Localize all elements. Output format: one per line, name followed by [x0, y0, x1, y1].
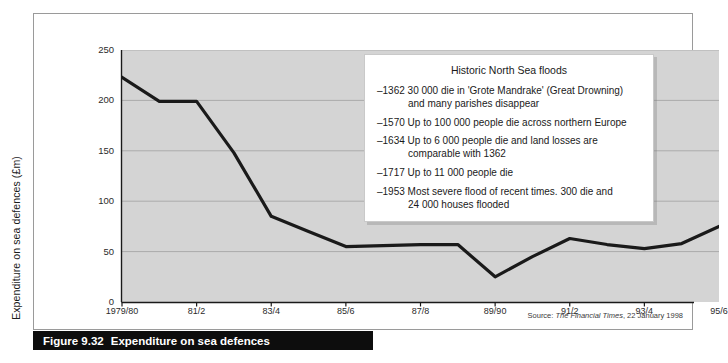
callout-item: –1570 Up to 100 000 people die across no…	[377, 117, 641, 130]
x-axis-tick-label: 89/90	[484, 306, 507, 316]
x-axis-tick-marks	[122, 302, 694, 307]
callout-item: –1362 30 000 die in 'Grote Mandrake' (Gr…	[377, 85, 641, 111]
y-axis-title: Expenditure on sea defences (£m)	[10, 118, 22, 358]
y-axis-tick-label: 50	[84, 247, 114, 257]
x-axis-tick-label: 85/6	[337, 306, 355, 316]
source-publication: The Financial Times	[555, 311, 622, 320]
y-axis-tick-label: 250	[84, 45, 114, 55]
callout-title: Historic North Sea floods	[377, 64, 641, 76]
callout-item: –1953 Most severe flood of recent times.…	[377, 186, 641, 212]
x-axis-tick-label: 81/2	[188, 306, 206, 316]
caption-number: Figure 9.32	[43, 335, 104, 347]
x-axis-tick-label: 83/4	[262, 306, 280, 316]
figure-caption-bar: Figure 9.32 Expenditure on sea defences	[33, 331, 373, 350]
historic-floods-callout: Historic North Sea floods –1362 30 000 d…	[364, 54, 654, 222]
y-axis-tick-label: 200	[84, 95, 114, 105]
figure-frame: Expenditure on sea defences (£m) 0501001…	[33, 13, 693, 330]
caption-text: Expenditure on sea defences	[111, 335, 270, 347]
source-date: , 22 January 1998	[623, 311, 683, 320]
x-axis-tick-label: 87/8	[412, 306, 430, 316]
y-axis-tick-label: 100	[84, 196, 114, 206]
x-axis-tick-label: 1979/80	[106, 306, 139, 316]
callout-item: –1717 Up to 11 000 people die	[377, 167, 641, 180]
callout-item: –1634 Up to 6 000 people die and land lo…	[377, 135, 641, 161]
y-axis-tick-label: 150	[84, 146, 114, 156]
source-note: Source: The Financial Times, 22 January …	[528, 311, 683, 320]
callout-item-list: –1362 30 000 die in 'Grote Mandrake' (Gr…	[377, 85, 641, 211]
source-prefix: Source:	[528, 311, 554, 320]
x-axis-tick-label: 95/6	[710, 306, 728, 316]
